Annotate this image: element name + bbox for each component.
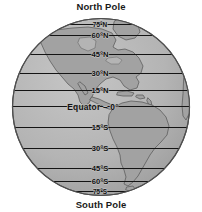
latitude-label-n75: 75°N xyxy=(93,21,107,27)
latitude-label-n60: 60°N xyxy=(92,32,109,40)
latitude-label-n15: 15°N xyxy=(92,87,109,95)
latitude-label-s15: 15°S xyxy=(92,124,109,132)
europe-edge-shape xyxy=(183,33,202,52)
latitude-label-s45: 45°S xyxy=(92,165,109,173)
latitude-label-s30: 30°S xyxy=(92,145,109,153)
south-pole-label: South Pole xyxy=(0,199,202,210)
latitude-label-eq: Equator – 0° xyxy=(67,102,118,110)
latitude-label-s60: 60°S xyxy=(92,178,109,186)
latitude-label-s75: 75°S xyxy=(93,188,107,194)
latitude-label-n45: 45°N xyxy=(92,51,109,59)
globe-latitude-diagram: North Pole South Pole 75°N60°N45°N30°N15… xyxy=(0,0,202,212)
north-pole-label: North Pole xyxy=(0,1,202,12)
latitude-label-n30: 30°N xyxy=(92,70,109,78)
